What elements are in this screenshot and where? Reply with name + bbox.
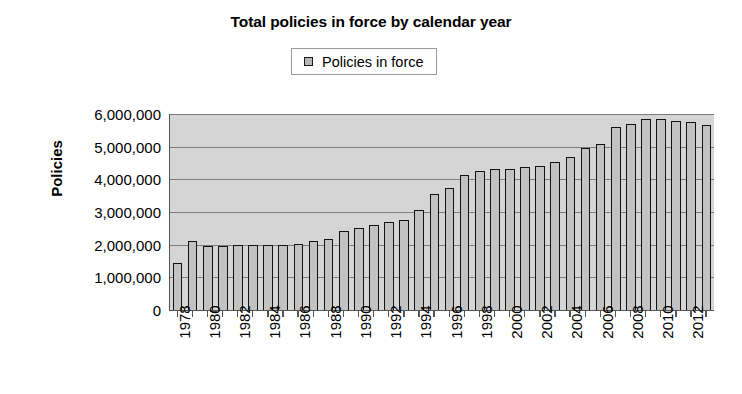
x-axis-label-slot: 1988 <box>320 320 335 390</box>
bar <box>550 162 560 310</box>
bar-slot <box>699 114 714 310</box>
bar <box>686 122 696 310</box>
bar <box>369 225 379 310</box>
bar-slot <box>654 114 669 310</box>
bar-slot <box>397 114 412 310</box>
x-axis-label-slot <box>184 320 199 390</box>
bar <box>460 175 470 310</box>
bar-slot <box>487 114 502 310</box>
bar-slot <box>382 114 397 310</box>
bar-slot <box>669 114 684 310</box>
x-axis-label-slot <box>607 320 622 390</box>
x-axis-label-slot: 1982 <box>229 320 244 390</box>
bar <box>354 228 364 310</box>
x-axis-label-slot <box>214 320 229 390</box>
x-axis-label-slot: 1978 <box>169 320 184 390</box>
bar <box>566 157 576 310</box>
x-axis-label-slot: 1994 <box>411 320 426 390</box>
bar-slot <box>170 114 185 310</box>
bar <box>475 171 485 310</box>
bar-slot <box>276 114 291 310</box>
x-axis-label-slot <box>547 320 562 390</box>
bar <box>384 222 394 310</box>
bar <box>702 125 712 310</box>
x-axis-label-slot: 1980 <box>199 320 214 390</box>
x-axis-label-slot: 2010 <box>653 320 668 390</box>
x-axis-label-slot <box>245 320 260 390</box>
bar-slot <box>472 114 487 310</box>
x-axis-label-slot <box>456 320 471 390</box>
bar-slot <box>638 114 653 310</box>
bar <box>581 148 591 310</box>
bar <box>339 231 349 310</box>
bar-slot <box>548 114 563 310</box>
bar-slot <box>336 114 351 310</box>
bar-slot <box>366 114 381 310</box>
x-axis-label-slot <box>577 320 592 390</box>
legend-label: Policies in force <box>322 54 424 70</box>
bar <box>324 239 334 310</box>
x-axis-label-slot <box>637 320 652 390</box>
y-axis-tick-label: 1,000,000 <box>51 270 161 285</box>
bar <box>248 245 258 310</box>
bar <box>626 124 636 310</box>
bar <box>218 246 228 310</box>
y-axis-tick-labels: 6,000,0005,000,0004,000,0003,000,0002,00… <box>48 0 161 394</box>
bar <box>278 245 288 310</box>
bar-slot <box>261 114 276 310</box>
bar <box>535 166 545 310</box>
x-axis-label-slot <box>275 320 290 390</box>
bar-slot <box>623 114 638 310</box>
chart-legend: Policies in force <box>291 48 437 75</box>
bar-slot <box>351 114 366 310</box>
x-axis-label-slot <box>396 320 411 390</box>
y-axis-tick-label: 5,000,000 <box>51 140 161 155</box>
x-axis-label-slot <box>305 320 320 390</box>
bar <box>445 188 455 311</box>
bar-slot <box>215 114 230 310</box>
bar-slot <box>684 114 699 310</box>
bar <box>414 210 424 310</box>
bar-slot <box>306 114 321 310</box>
bar <box>203 246 213 310</box>
y-axis-tick-label: 0 <box>51 303 161 318</box>
x-axis-label-slot: 2002 <box>532 320 547 390</box>
bar-slot <box>457 114 472 310</box>
x-axis-label-slot <box>668 320 683 390</box>
x-axis-label-slot <box>698 320 713 390</box>
bar-slot <box>412 114 427 310</box>
bar <box>399 220 409 310</box>
bar-series <box>170 114 714 310</box>
bar <box>596 144 606 310</box>
x-axis-tick-labels: 1978198019821984198619881990199219941996… <box>169 320 713 390</box>
legend-swatch-icon <box>304 57 313 66</box>
bar-slot <box>246 114 261 310</box>
bar-slot <box>563 114 578 310</box>
chart-container: Total policies in force by calendar year… <box>0 0 742 394</box>
bar <box>309 241 319 310</box>
x-axis-label-slot <box>365 320 380 390</box>
bar <box>188 241 198 310</box>
bar-slot <box>578 114 593 310</box>
bar <box>263 245 273 310</box>
bar <box>520 167 530 310</box>
bar-slot <box>442 114 457 310</box>
x-axis-label-slot: 1984 <box>260 320 275 390</box>
bar-slot <box>593 114 608 310</box>
bar-slot <box>502 114 517 310</box>
bar-slot <box>608 114 623 310</box>
x-axis-label-slot <box>426 320 441 390</box>
bar <box>656 119 666 310</box>
x-axis-label-slot: 2004 <box>562 320 577 390</box>
x-axis-label-slot <box>486 320 501 390</box>
x-axis-label-slot: 1998 <box>471 320 486 390</box>
bar-slot <box>533 114 548 310</box>
bar <box>430 194 440 310</box>
x-axis-label-slot: 2000 <box>501 320 516 390</box>
bar <box>505 169 515 310</box>
bar <box>490 169 500 310</box>
bar <box>294 244 304 310</box>
x-axis-label-slot: 2006 <box>592 320 607 390</box>
y-axis-tick-label: 2,000,000 <box>51 238 161 253</box>
x-axis-label-slot: 1990 <box>350 320 365 390</box>
